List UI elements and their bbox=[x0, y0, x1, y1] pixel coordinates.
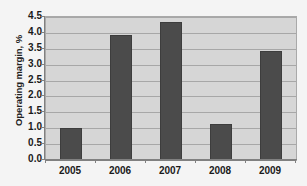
x-axis-tick-mark bbox=[295, 159, 296, 163]
x-axis-tick-labels: 20052006200720082009 bbox=[45, 165, 295, 181]
bars-layer bbox=[46, 17, 296, 160]
y-axis-tick-label: 4.0 bbox=[16, 27, 42, 37]
x-axis-tick-label: 2007 bbox=[159, 165, 181, 176]
plot-area bbox=[45, 16, 297, 161]
y-axis-tick-label: 4.5 bbox=[16, 11, 42, 21]
x-axis-tick-marks bbox=[45, 159, 295, 163]
x-axis-tick-mark bbox=[95, 159, 96, 163]
bar bbox=[110, 35, 132, 160]
x-axis-tick-mark bbox=[245, 159, 246, 163]
x-axis-tick-mark bbox=[195, 159, 196, 163]
y-axis-tick-label: 1.5 bbox=[16, 106, 42, 116]
y-axis-tick-label: 2.5 bbox=[16, 75, 42, 85]
x-axis-tick-label: 2006 bbox=[109, 165, 131, 176]
x-axis-tick-label: 2009 bbox=[259, 165, 281, 176]
operating-margin-bar-chart: Operating margin, % 0.00.51.01.52.02.53.… bbox=[0, 0, 307, 186]
y-axis-tick-label: 3.0 bbox=[16, 59, 42, 69]
y-axis-tick-label: 3.5 bbox=[16, 43, 42, 53]
y-axis-tick-label: 0.0 bbox=[16, 154, 42, 164]
chart-title bbox=[0, 0, 307, 3]
y-axis-tick-label: 0.5 bbox=[16, 138, 42, 148]
bar bbox=[160, 22, 182, 160]
bar bbox=[210, 124, 232, 160]
bar bbox=[260, 51, 282, 160]
x-axis-tick-label: 2008 bbox=[209, 165, 231, 176]
y-axis-tick-label: 2.0 bbox=[16, 90, 42, 100]
y-axis-tick-labels: 0.00.51.01.52.02.53.03.54.04.5 bbox=[16, 11, 42, 163]
bar bbox=[60, 128, 82, 160]
x-axis-tick-label: 2005 bbox=[59, 165, 81, 176]
x-axis-tick-mark bbox=[145, 159, 146, 163]
x-axis-tick-mark bbox=[45, 159, 46, 163]
y-axis-tick-label: 1.0 bbox=[16, 122, 42, 132]
